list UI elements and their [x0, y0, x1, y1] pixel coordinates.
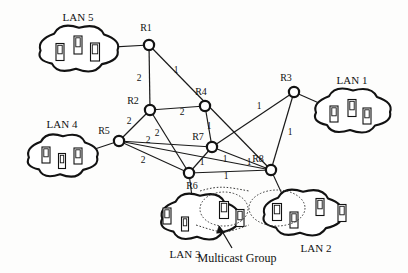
router-label-R2: R2 [127, 96, 139, 106]
router-node-R6[interactable] [184, 168, 194, 178]
host-icon [59, 154, 66, 169]
host-icon [236, 210, 244, 227]
host-icon [290, 212, 298, 228]
link-weight-R5-R7: 2 [146, 136, 151, 146]
router-label-R5: R5 [98, 126, 110, 136]
router-label-R1: R1 [140, 23, 152, 33]
link-weight-R5-R8: 1 [247, 158, 252, 168]
host-icon-screen [292, 214, 296, 222]
host-icon-screen [340, 206, 344, 215]
router-label-R8: R8 [252, 154, 264, 164]
host-icon [338, 205, 346, 222]
host-icon-screen [318, 200, 322, 209]
host-icon-screen [221, 203, 226, 212]
router-node-R3[interactable] [289, 87, 299, 97]
host-icon-screen [274, 205, 279, 214]
link-R7-R3 [212, 92, 294, 147]
router-label-R7: R7 [192, 132, 204, 142]
host-icon [316, 199, 324, 216]
link-weight-R2-R4: 2 [180, 108, 185, 118]
lan-label-lan2: LAN 2 [301, 243, 332, 254]
host-icon-screen [44, 149, 48, 157]
link-weight-R2-R6: 2 [155, 129, 160, 139]
router-node-R8[interactable] [266, 165, 276, 175]
link-weight-R7-R8: 1 [223, 155, 228, 165]
router-node-R2[interactable] [145, 105, 155, 115]
router-node-R7[interactable] [207, 142, 217, 152]
host-icon [163, 208, 171, 224]
lan-label-lan5: LAN 5 [63, 12, 94, 23]
host-icon [273, 204, 282, 221]
host-icon [74, 148, 82, 164]
router-label-R6: R6 [186, 181, 198, 191]
multicast-link-top [200, 187, 249, 191]
host-icon [42, 147, 50, 163]
diagram-canvas [0, 0, 408, 273]
host-icon-screen [76, 150, 80, 158]
link-weight-R7-R3: 1 [257, 102, 262, 112]
host-icon-screen [238, 211, 242, 220]
link-weight-R2-R5: 2 [127, 117, 132, 127]
router-label-R3: R3 [280, 73, 292, 83]
link-weight-R1-R8: 1 [174, 66, 179, 76]
host-icon [56, 44, 64, 61]
host-icon-screen [58, 45, 62, 54]
host-icon-screen [365, 110, 369, 118]
link-weight-R6-R8: 1 [224, 172, 229, 182]
link-R6-R8 [189, 170, 271, 173]
host-icon [74, 36, 82, 54]
multicast-group-annotation: Multicast Group [198, 252, 277, 264]
host-icon-screen [332, 108, 336, 116]
host-icon [348, 100, 356, 117]
router-node-R4[interactable] [200, 101, 210, 111]
host-icon [363, 108, 371, 124]
host-icon-screen [183, 219, 186, 226]
link-weight-R6-R7: 1 [200, 158, 205, 168]
network-diagram-figure: LAN 5LAN 4LAN 1LAN 3LAN 221222122111111R… [0, 0, 408, 273]
host-icon-screen [76, 38, 80, 47]
link-weight-R4-R7: 1 [207, 122, 212, 132]
link-R1-R2 [149, 45, 150, 110]
lan-label-lan3: LAN 3 [170, 249, 201, 260]
host-icon-screen [60, 155, 63, 163]
host-icon [91, 43, 100, 61]
link-weight-R5-R6: 2 [141, 156, 146, 166]
link-weight-R3-R8: 1 [288, 128, 293, 138]
router-node-R5[interactable] [114, 136, 124, 146]
host-icon-screen [165, 210, 169, 218]
host-icon-screen [350, 101, 354, 110]
link-R2-R4 [150, 106, 205, 110]
link-weight-R1-R2: 2 [137, 74, 142, 84]
host-icon [330, 106, 338, 122]
host-icon-screen [92, 45, 97, 54]
lan-label-lan1: LAN 1 [337, 75, 368, 86]
lan-label-lan4: LAN 4 [47, 119, 78, 130]
router-node-R1[interactable] [144, 40, 154, 50]
host-icon [182, 217, 189, 231]
router-label-R4: R4 [195, 87, 207, 97]
host-icon [220, 202, 229, 219]
